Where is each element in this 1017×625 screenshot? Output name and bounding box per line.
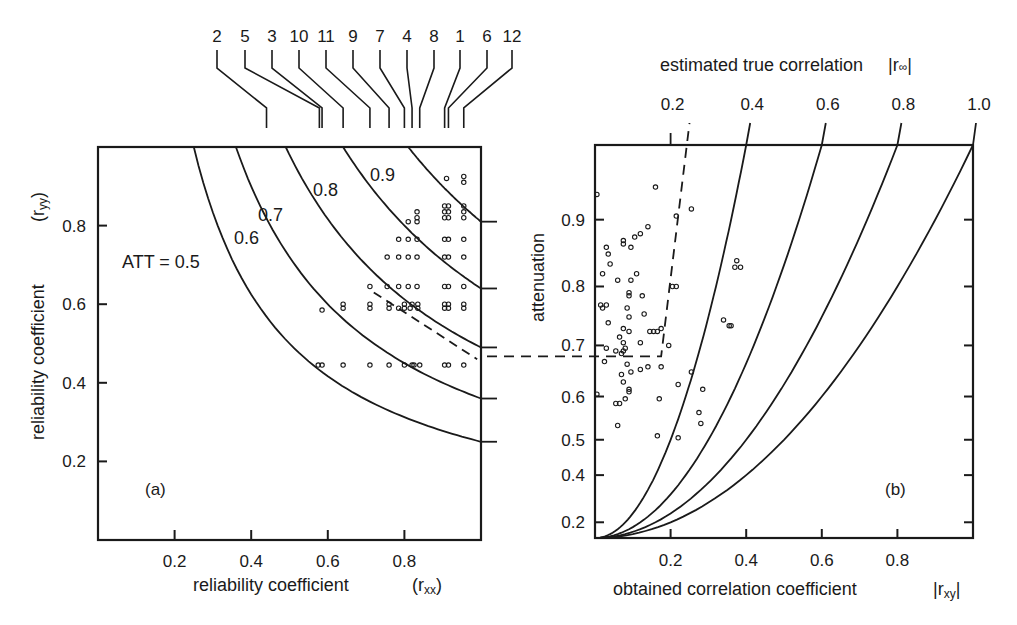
true-corr-label: 0.4 (740, 95, 764, 114)
study-label: 7 (375, 27, 384, 46)
true-corr-label: 0.6 (816, 95, 840, 114)
panel-a-chart: 0.20.40.60.80.20.40.60.8ATT = 0.50.60.70… (62, 147, 497, 571)
data-point (615, 278, 619, 282)
data-point (738, 265, 742, 269)
data-point (676, 436, 680, 440)
data-point (387, 363, 391, 367)
y-tick-label: 0.2 (62, 452, 86, 471)
panel-b-title: estimated true correlation (660, 55, 863, 75)
dashed-guide (374, 292, 477, 359)
study-connector (407, 50, 412, 128)
data-point (699, 421, 703, 425)
data-point (659, 326, 663, 330)
y-tick-label: 0.5 (561, 431, 585, 450)
att-curve-label: 0.6 (234, 228, 259, 248)
data-point (604, 245, 608, 249)
data-point (629, 278, 633, 282)
data-point (462, 255, 466, 259)
y-tick-label: 0.8 (561, 277, 585, 296)
y-tick-label: 0.4 (561, 466, 585, 485)
panel-b-frame (595, 145, 973, 538)
data-point (627, 329, 631, 333)
y-tick-label: 0.4 (62, 374, 86, 393)
panel-b-title-symbol: |r∞| (888, 55, 912, 75)
data-point (406, 237, 410, 241)
data-point (625, 362, 629, 366)
panel-a-ylabel: reliability coefficient (28, 284, 48, 440)
study-label: 5 (240, 27, 249, 46)
data-point (638, 340, 642, 344)
data-point (653, 185, 657, 189)
data-point (608, 262, 612, 266)
data-point (640, 294, 644, 298)
y-tick-label: 0.6 (561, 388, 585, 407)
data-point (602, 359, 606, 363)
true-corr-label: 0.2 (661, 95, 685, 114)
data-point (606, 321, 610, 325)
data-point (415, 284, 419, 288)
study-label: 4 (402, 27, 411, 46)
data-point (621, 326, 625, 330)
data-point (689, 207, 693, 211)
data-point (396, 255, 400, 259)
att-curve-label: 0.7 (258, 205, 283, 225)
data-point (721, 318, 725, 322)
data-point (638, 231, 642, 235)
data-point (646, 225, 650, 229)
data-point (614, 349, 618, 353)
data-point (406, 219, 410, 223)
data-point (701, 387, 705, 391)
x-tick-label: 0.2 (659, 551, 683, 570)
x-tick-label: 0.4 (239, 552, 263, 571)
data-point (415, 255, 419, 259)
x-tick-label: 0.2 (163, 552, 187, 571)
data-point (625, 306, 629, 310)
y-tick-label: 0.9 (561, 211, 585, 230)
att-curve-label: ATT = 0.5 (122, 252, 200, 272)
data-point (462, 237, 466, 241)
data-point (676, 382, 680, 386)
data-point (604, 303, 608, 307)
data-point (655, 434, 659, 438)
x-tick-label: 0.8 (886, 551, 910, 570)
data-point (629, 245, 633, 249)
data-point (320, 308, 324, 312)
study-label: 10 (290, 27, 309, 46)
data-point (697, 410, 701, 414)
x-tick-label: 0.6 (316, 552, 340, 571)
study-connector (380, 50, 404, 128)
att-curve-label: 0.8 (313, 180, 338, 200)
data-point (462, 210, 466, 214)
att-curve (236, 147, 481, 399)
data-point (646, 365, 650, 369)
true-corr-label: 0.8 (892, 95, 916, 114)
study-connector (353, 50, 389, 128)
data-point (600, 272, 604, 276)
att-curve (343, 147, 481, 289)
study-connector (245, 50, 319, 128)
study-connector (448, 50, 487, 128)
data-point (396, 284, 400, 288)
data-point (619, 372, 623, 376)
data-point (632, 235, 636, 239)
y-tick-label: 0.7 (561, 336, 585, 355)
data-point (444, 176, 448, 180)
study-label: 1 (455, 27, 464, 46)
data-point (406, 255, 410, 259)
data-point (617, 335, 621, 339)
data-point (415, 210, 419, 214)
data-point (621, 380, 625, 384)
study-label: 9 (348, 27, 357, 46)
data-point (341, 363, 345, 367)
study-label: 11 (317, 27, 335, 46)
data-point (638, 367, 642, 371)
study-connector (217, 50, 267, 128)
data-point (462, 180, 466, 184)
study-label: 3 (267, 27, 276, 46)
data-point (368, 284, 372, 288)
data-point (606, 252, 610, 256)
data-point (629, 370, 633, 374)
true-corr-curve (595, 123, 826, 538)
data-point (615, 423, 619, 427)
data-point (604, 346, 608, 350)
